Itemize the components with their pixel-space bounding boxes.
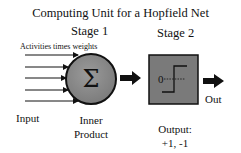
threshold-box: 0 — [149, 55, 198, 104]
out-label: Out — [205, 93, 222, 105]
output-line1: Output: — [150, 122, 200, 136]
sigma-icon: Σ — [83, 65, 100, 93]
output-values-label: Output: +1, -1 — [150, 122, 200, 150]
inner-product-label: Inner Product — [71, 113, 111, 141]
threshold-zero-label: 0 — [158, 73, 164, 85]
summation-node: Σ — [66, 54, 116, 104]
hopfield-unit-diagram: Σ 0 — [0, 0, 241, 153]
stage-arrow — [120, 71, 141, 85]
inner-product-line1: Inner — [71, 113, 111, 127]
inner-product-line2: Product — [71, 127, 111, 141]
input-label: Input — [16, 111, 39, 125]
output-line2: +1, -1 — [150, 136, 200, 150]
output-arrow — [203, 74, 224, 88]
